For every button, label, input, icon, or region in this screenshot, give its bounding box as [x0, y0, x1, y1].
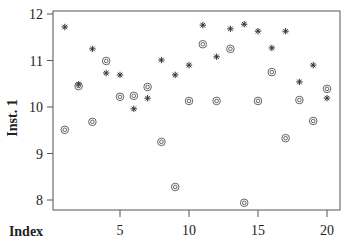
double-circle-marker — [158, 138, 166, 146]
asterisk-marker — [269, 45, 275, 51]
double-circle-marker — [227, 45, 235, 53]
double-circle-marker — [199, 40, 207, 48]
double-circle-marker — [309, 117, 317, 125]
chart-canvas: 89101112 5101520 Inst. 1 Index — [0, 0, 344, 244]
asterisk-marker — [186, 62, 192, 68]
double-circle-marker — [102, 57, 110, 65]
double-circle-marker — [268, 68, 276, 76]
asterisk-marker — [131, 106, 137, 112]
asterisk-marker — [200, 22, 206, 28]
double-circle-marker — [116, 93, 124, 101]
plot-border — [53, 11, 340, 210]
asterisk-marker — [117, 72, 123, 78]
y-tick-label: 11 — [30, 54, 43, 69]
double-circle-marker — [61, 126, 69, 134]
y-tick-label: 10 — [29, 100, 43, 115]
asterisk-marker — [158, 57, 164, 63]
double-circle-marker — [185, 97, 193, 105]
asterisk-marker — [282, 28, 288, 34]
double-circle-marker — [296, 96, 304, 104]
y-tick-label: 12 — [29, 7, 43, 22]
asterisk-marker — [310, 62, 316, 68]
plot-frame — [53, 11, 340, 210]
double-circle-marker — [130, 92, 138, 100]
double-circle-marker — [254, 97, 262, 105]
x-tick-label: 15 — [251, 223, 265, 238]
asterisk-marker — [255, 28, 261, 34]
y-axis-label: Inst. 1 — [5, 99, 20, 136]
x-axis-label: Index — [9, 224, 43, 239]
asterisk-marker — [62, 24, 68, 30]
x-tick-label: 10 — [182, 223, 196, 238]
y-tick-label: 9 — [36, 147, 43, 162]
x-tick-label: 20 — [320, 223, 334, 238]
y-axis: 89101112 — [29, 7, 53, 208]
y-tick-label: 8 — [36, 193, 43, 208]
scatter-chart: 89101112 5101520 Inst. 1 Index — [0, 0, 344, 244]
asterisk-marker — [144, 95, 150, 101]
asterisk-marker — [227, 26, 233, 32]
asterisk-marker — [103, 70, 109, 76]
data-points — [61, 21, 331, 207]
double-circle-marker — [171, 183, 179, 191]
x-tick-label: 5 — [117, 223, 124, 238]
double-circle-marker — [213, 97, 221, 105]
asterisk-marker — [213, 54, 219, 60]
asterisk-marker — [89, 46, 95, 52]
asterisk-marker — [324, 95, 330, 101]
double-circle-marker — [240, 199, 248, 207]
double-circle-marker — [89, 118, 97, 126]
x-axis: 5101520 — [117, 210, 335, 238]
asterisk-marker — [241, 21, 247, 27]
double-circle-marker — [323, 85, 331, 93]
double-circle-marker — [282, 134, 290, 142]
asterisk-marker — [172, 72, 178, 78]
asterisk-marker — [296, 79, 302, 85]
double-circle-marker — [144, 83, 152, 91]
